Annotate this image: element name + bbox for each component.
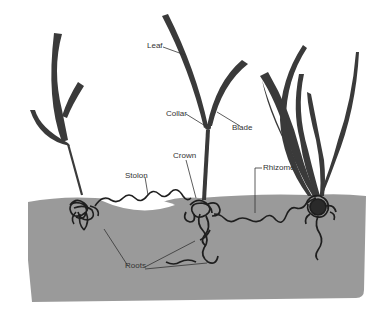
- middle-plant: [162, 14, 248, 200]
- label-rhizome: Rhizome: [263, 163, 295, 172]
- label-blade: Blade: [232, 123, 253, 132]
- right-plant: [260, 45, 359, 198]
- label-crown: Crown: [173, 151, 196, 160]
- label-stolon: Stolon: [125, 171, 148, 180]
- label-roots: Roots: [125, 261, 146, 270]
- diagram-svg: Leaf Collar Blade Crown Stolon Rhizome R…: [0, 0, 387, 317]
- grass-anatomy-diagram: Leaf Collar Blade Crown Stolon Rhizome R…: [0, 0, 387, 317]
- label-collar: Collar: [166, 109, 187, 118]
- label-leaf: Leaf: [147, 41, 163, 50]
- left-plant: [30, 33, 84, 195]
